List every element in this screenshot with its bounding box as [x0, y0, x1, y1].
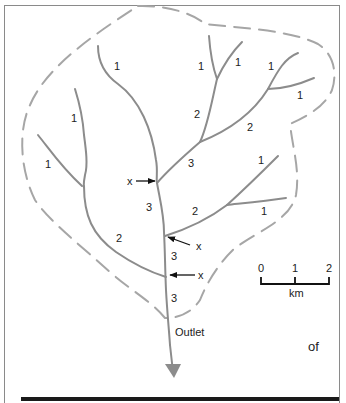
order-label-top-mid-left: 1: [198, 60, 204, 72]
order-label-main-third-lower: 3: [171, 292, 177, 304]
top-mid-left-trib: [209, 36, 217, 79]
order-label-upper-third: 3: [188, 157, 194, 169]
scale-bar-line: [261, 277, 329, 284]
order-label-left-second: 2: [116, 232, 122, 244]
order-label-main-third-upper: 3: [146, 201, 152, 213]
junction-arrow-middle: [168, 237, 190, 245]
left-second-order: [84, 186, 166, 277]
order-label-mid-right-lower: 1: [261, 205, 267, 217]
order-label-top-right-upper: 1: [268, 60, 274, 72]
order-label-left-upper: 1: [71, 112, 77, 124]
mid-right-lower-trib: [227, 198, 286, 205]
upper-second-order: [200, 79, 217, 142]
order-label-main-third-middle: 3: [171, 250, 177, 262]
junction-marker-lower: x: [198, 269, 204, 281]
outlet-arrowhead: [165, 364, 181, 378]
scale-tick-2: 2: [326, 262, 332, 274]
scale-tick-0: 0: [258, 262, 264, 274]
main-stem: [98, 46, 170, 345]
junction-marker-upper: x: [127, 175, 133, 187]
scale-unit: km: [289, 287, 304, 299]
top-right-lower-trib: [268, 78, 314, 89]
scale-tick-1: 1: [292, 262, 298, 274]
order-label-top-mid-right: 1: [235, 56, 241, 68]
mid-right-upper-trib: [227, 156, 278, 205]
order-label-right-second: 2: [247, 121, 253, 133]
bottom-rule: [21, 397, 339, 401]
drainage-basin-figure: x x x 1 1 1 1 1 1 1 2 2 3 1 1 2 3 2 3 3 …: [0, 0, 346, 403]
left-upper-trib: [75, 89, 87, 187]
order-label-mid-second: 2: [192, 205, 198, 217]
scale-bar: 0 1 2 km: [258, 262, 332, 299]
order-label-mid-right-upper: 1: [258, 154, 264, 166]
order-label-upper-second: 2: [194, 108, 200, 120]
order-label-left-lower: 1: [45, 158, 51, 170]
drainage-map: x x x 1 1 1 1 1 1 1 2 2 3 1 1 2 3 2 3 3 …: [0, 0, 346, 403]
caption-fragment: of: [308, 339, 319, 354]
junction-marker-middle: x: [196, 240, 202, 252]
order-label-top-right-lower: 1: [297, 89, 303, 101]
right-second-order: [200, 89, 268, 142]
order-label-top-left: 1: [114, 60, 120, 72]
outlet-label: Outlet: [175, 326, 204, 338]
